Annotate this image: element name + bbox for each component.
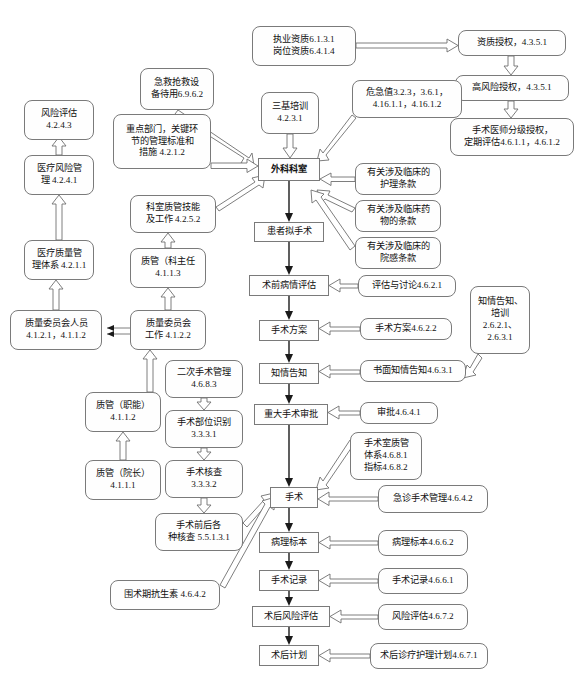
node-shoushu[interactable]: 手术 <box>270 487 318 508</box>
node-zhiguanzhineng[interactable]: 质管（职能） 4.1.1.2 <box>85 392 161 432</box>
edge-zhiye-to-zizhi <box>356 39 458 52</box>
node-zhongdian[interactable]: 重点部门，关键环 节的管理标准和 措施 4.2.1.2 <box>113 114 211 169</box>
node-shumianzhiqing[interactable]: 书面知情告知4.6.3.1 <box>360 360 466 382</box>
edge-gaofeng-to-fenji <box>504 101 518 118</box>
edge-zizhi-to-gaofeng <box>504 56 518 75</box>
node-shuhoujihua[interactable]: 术后计划 <box>259 645 319 666</box>
edge-sanji-to-waike <box>283 134 297 158</box>
edge-bingli-to-bingli <box>319 536 378 549</box>
edge-huli-to-waike <box>320 173 355 186</box>
node-yiliaofengxian[interactable]: 医疗风险管 理 4.2.4.1 <box>24 155 94 195</box>
node-weishusu[interactable]: 围术期抗生素 4.6.4.2 <box>110 580 220 610</box>
node-shoushujilu[interactable]: 手术记录 <box>259 570 319 591</box>
node-shoushubuwei[interactable]: 手术部位识别 3.3.3.1 <box>165 410 243 448</box>
node-shoushufangan[interactable]: 手术方案 <box>259 320 319 341</box>
node-shuhouzhenliao[interactable]: 术后诊疗护理计划4.6.7.1 <box>370 643 488 669</box>
node-hulitiaokuan[interactable]: 有关涉及临床的 护理条款 <box>355 163 441 195</box>
node-shoushuqianhou[interactable]: 手术前后各 种核查 5.5.1.3.1 <box>155 513 243 551</box>
edge-weiyuanren-to-zhilianti <box>49 280 63 310</box>
node-fenji[interactable]: 手术医师分级授权， 定期评估4.6.1.1，4.6.1.2 <box>450 118 574 156</box>
node-huanzhe[interactable]: 患者拟手术 <box>254 222 324 242</box>
node-zhiliangweiyuanren[interactable]: 质量委员会人员 4.1.2.1，4.1.1.2 <box>10 310 102 350</box>
edge-shumian-to-zhiqing <box>319 365 360 378</box>
node-waike[interactable]: 外科科室 <box>258 158 320 181</box>
node-jizhen[interactable]: 急诊手术管理4.6.4.2 <box>378 485 488 513</box>
node-fengxianpinggu_r[interactable]: 风险评估4.6.7.2 <box>378 604 468 630</box>
node-zhiqinggaozhi[interactable]: 知情告知 <box>259 363 319 384</box>
flowchart-canvas: 执业资质6.1.3.1 岗位资质6.4.1.4资质授权，4.3.5.1高风险授权… <box>0 0 584 692</box>
edge-zhongda-to-shoushu <box>285 425 293 487</box>
edge-zhiqing-to-zhongda <box>285 384 293 404</box>
node-yuangantiaokuan[interactable]: 有关涉及临床的 院感条款 <box>355 237 441 269</box>
node-shoushufangan_r[interactable]: 手术方案4.6.2.2 <box>360 318 452 340</box>
node-shenpi[interactable]: 审批4.6.4.1 <box>360 402 438 424</box>
edge-zhilianti-to-yiliaofengxian <box>52 195 66 240</box>
node-yaowutiaokuan[interactable]: 有关涉及临床药 物的条款 <box>355 200 441 232</box>
edge-jilu-to-shuhoufengxian <box>285 591 293 606</box>
node-weiji[interactable]: 危急值3.2.3，3.6.1， 4.16.1.1，4.16.1.2 <box>352 80 462 118</box>
node-zhiliangweiyuangongzuo[interactable]: 质量委员会 工作 4.1.2.2 <box>130 310 206 350</box>
node-fengxian[interactable]: 风险评估 4.2.4.3 <box>24 100 94 140</box>
node-bingli_r[interactable]: 病理标本4.6.6.2 <box>378 530 468 556</box>
edge-erci-to-buwei <box>197 398 211 410</box>
edge-hecha-to-qianhou <box>197 498 211 513</box>
edge-gongzuo-to-weiyuanren <box>107 325 130 337</box>
node-shoushujilu_r[interactable]: 手术记录4.6.6.1 <box>378 568 468 594</box>
node-shuqian[interactable]: 术前病情评估 <box>249 275 329 296</box>
edge-weiji-to-waike <box>317 115 356 161</box>
edge-pinggu-to-shuqian <box>329 279 358 292</box>
node-shoushushizhiguan[interactable]: 手术室质管 体系4.6.8.1 指标4.6.8.2 <box>350 432 422 480</box>
edge-huanzhe-to-shuqian <box>285 242 293 275</box>
edge-fangan-to-fangan <box>319 322 360 335</box>
edge-shoushu-to-bingli <box>285 508 293 532</box>
edge-shoushushi-to-shoushu <box>316 440 354 490</box>
node-zhiye[interactable]: 执业资质6.1.3.1 岗位资质6.4.1.4 <box>252 26 356 66</box>
edge-fengxian-to-shuhou <box>330 610 378 623</box>
edge-zhineng-to-gongzuo <box>143 350 157 392</box>
edge-shuhoufengxian-to-jihua <box>285 627 293 645</box>
node-zhongdashoushu[interactable]: 重大手术审批 <box>254 404 328 425</box>
node-zhilianti[interactable]: 医疗质量管 理体系 4.2.1.1 <box>24 240 94 280</box>
edge-buwei-to-hecha <box>197 448 211 460</box>
node-pinggutaolun[interactable]: 评估与讨论4.6.2.1 <box>358 275 456 297</box>
node-zhiguanke[interactable]: 质管（科主任 4.1.1.3 <box>130 248 206 288</box>
node-sanji[interactable]: 三基培训 4.2.3.1 <box>261 92 319 134</box>
edge-gongzuo-to-zhiguanke <box>161 288 175 310</box>
node-zhiguanyuanzhang[interactable]: 质管（院长） 4.1.1.1 <box>85 460 161 500</box>
edge-fangan-to-zhiqing <box>285 341 293 363</box>
edge-bingli-to-jilu <box>285 553 293 570</box>
edge-waike-to-huanzhe <box>285 181 293 222</box>
node-shuhoufengxian[interactable]: 术后风险评估 <box>252 606 330 627</box>
node-zizhi[interactable]: 资质授权，4.3.5.1 <box>458 30 566 56</box>
node-gaofeng[interactable]: 高风险授权，4.3.5.1 <box>455 75 569 101</box>
edge-yuanzhang-to-zhineng <box>116 432 130 460</box>
node-erci[interactable]: 二次手术管理 4.6.8.3 <box>165 360 243 398</box>
node-jijiu[interactable]: 急救抢救设 备待用6.9.6.2 <box>140 68 214 110</box>
edge-shuqian-to-fangan <box>285 296 293 320</box>
node-shoushuhecha[interactable]: 手术核查 3.3.3.2 <box>165 460 243 498</box>
edge-zhenliao-to-jihua <box>319 649 370 662</box>
node-bingli[interactable]: 病理标本 <box>259 532 319 553</box>
node-zhiqinggaozhi_peixun[interactable]: 知情告知、 培训 2.6.2.1、 2.6.3.1 <box>470 286 530 354</box>
edge-zhiguanke-to-keshizhiguan <box>161 233 175 248</box>
node-keshizhiguan[interactable]: 科室质管技能 及工作 4.2.5.2 <box>130 195 216 233</box>
edge-yaowu-to-waike <box>317 190 355 212</box>
edge-jilu-to-jilu <box>319 574 378 587</box>
edge-shenpi-to-zhongda <box>328 406 360 419</box>
edge-jizhen-to-shoushu <box>318 492 378 506</box>
edge-zhongdian-to-waike <box>211 159 258 173</box>
